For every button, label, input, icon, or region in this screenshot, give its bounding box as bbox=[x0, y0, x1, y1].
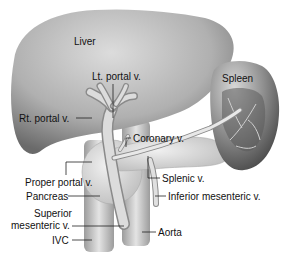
label-ivc: IVC bbox=[52, 235, 69, 246]
label-coronary-v: Coronary v. bbox=[133, 133, 184, 144]
label-splenic-v: Splenic v. bbox=[162, 173, 205, 184]
portal-venous-diagram: Liver Lt. portal v. Rt. portal v. Spleen… bbox=[0, 0, 287, 258]
label-inferior-mesenteric-v: Inferior mesenteric v. bbox=[168, 191, 261, 202]
label-lt-portal-v: Lt. portal v. bbox=[92, 71, 141, 82]
label-pancreas: Pancreas bbox=[26, 191, 68, 202]
label-liver: Liver bbox=[74, 36, 96, 47]
label-proper-portal-v: Proper portal v. bbox=[25, 177, 93, 188]
label-superior-mesenteric-v-line2: mesenteric v. bbox=[11, 220, 70, 231]
label-superior-mesenteric-v-line1: Superior bbox=[34, 208, 72, 219]
label-rt-portal-v: Rt. portal v. bbox=[19, 113, 69, 124]
label-spleen: Spleen bbox=[222, 73, 253, 84]
label-aorta: Aorta bbox=[158, 227, 182, 238]
